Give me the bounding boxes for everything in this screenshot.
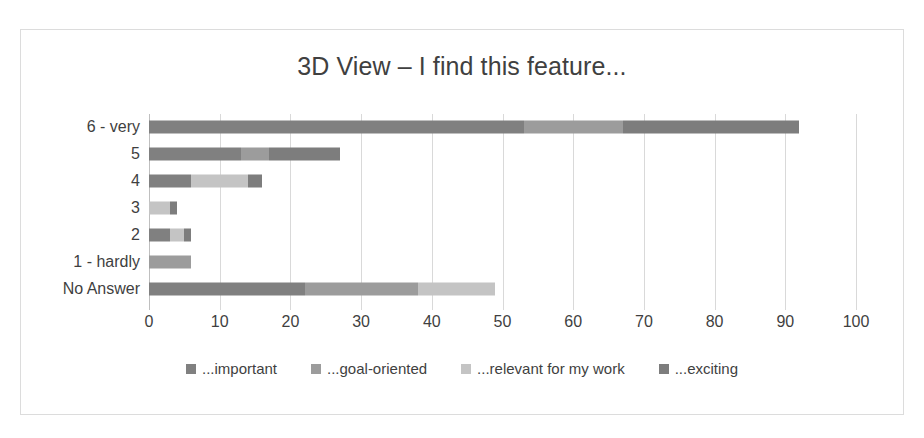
stacked-bar bbox=[149, 175, 262, 188]
bar-segment bbox=[149, 121, 524, 134]
bar-segment bbox=[418, 282, 496, 295]
bar-segment bbox=[305, 282, 418, 295]
x-tick-label: 70 bbox=[635, 313, 653, 331]
bar-segment bbox=[149, 282, 305, 295]
legend-item[interactable]: ...goal-oriented bbox=[311, 360, 427, 377]
stacked-bar bbox=[149, 282, 495, 295]
stacked-bar bbox=[149, 228, 191, 241]
legend-item[interactable]: ...relevant for my work bbox=[461, 360, 625, 377]
legend-label: ...goal-oriented bbox=[327, 360, 427, 377]
legend-item[interactable]: ...exciting bbox=[659, 360, 738, 377]
x-tick-label: 40 bbox=[423, 313, 441, 331]
bar-segment bbox=[191, 175, 248, 188]
chart-frame: 3D View – I find this feature... 6 - ver… bbox=[20, 29, 904, 415]
bar-segment bbox=[524, 121, 623, 134]
legend-swatch-icon bbox=[186, 364, 196, 374]
x-axis-tick-labels: 0102030405060708090100 bbox=[149, 313, 856, 337]
x-tick-label: 20 bbox=[281, 313, 299, 331]
x-tick-label: 100 bbox=[843, 313, 870, 331]
stacked-bar bbox=[149, 121, 799, 134]
legend-item[interactable]: ...important bbox=[186, 360, 277, 377]
stacked-bar bbox=[149, 148, 340, 161]
x-tick-label: 30 bbox=[352, 313, 370, 331]
x-tick-label: 80 bbox=[706, 313, 724, 331]
gridline-100 bbox=[856, 114, 857, 310]
category-label: 4 bbox=[131, 172, 140, 190]
x-tick-label: 60 bbox=[564, 313, 582, 331]
bar-segment bbox=[184, 228, 191, 241]
bar-row: No Answer bbox=[149, 275, 856, 302]
bar-segment bbox=[149, 255, 191, 268]
bar-segment bbox=[149, 175, 191, 188]
legend-swatch-icon bbox=[311, 364, 321, 374]
bar-row: 3 bbox=[149, 195, 856, 222]
x-tick-label: 10 bbox=[211, 313, 229, 331]
chart-legend: ...important...goal-oriented...relevant … bbox=[21, 360, 903, 377]
legend-swatch-icon bbox=[461, 364, 471, 374]
legend-label: ...important bbox=[202, 360, 277, 377]
bar-segment bbox=[149, 148, 241, 161]
x-tick-label: 50 bbox=[494, 313, 512, 331]
stacked-bar bbox=[149, 201, 177, 214]
category-label: 6 - very bbox=[87, 118, 140, 136]
bar-row: 2 bbox=[149, 221, 856, 248]
legend-label: ...exciting bbox=[675, 360, 738, 377]
bar-segment bbox=[170, 201, 177, 214]
bar-row: 4 bbox=[149, 168, 856, 195]
category-label: No Answer bbox=[63, 280, 140, 298]
bar-row: 5 bbox=[149, 141, 856, 168]
category-label: 1 - hardly bbox=[73, 253, 140, 271]
category-label: 2 bbox=[131, 226, 140, 244]
legend-label: ...relevant for my work bbox=[477, 360, 625, 377]
bar-segment bbox=[248, 175, 262, 188]
category-label: 5 bbox=[131, 145, 140, 163]
bar-row: 1 - hardly bbox=[149, 248, 856, 275]
chart-title: 3D View – I find this feature... bbox=[21, 52, 903, 81]
bar-segment bbox=[241, 148, 269, 161]
plot-area: 6 - very54321 - hardlyNo Answer bbox=[149, 114, 856, 302]
bar-segment bbox=[149, 228, 170, 241]
bar-segment bbox=[269, 148, 340, 161]
x-tick-label: 90 bbox=[776, 313, 794, 331]
stacked-bar bbox=[149, 255, 191, 268]
bar-segment bbox=[170, 228, 184, 241]
bar-segment bbox=[149, 201, 170, 214]
bar-row: 6 - very bbox=[149, 114, 856, 141]
x-tick-label: 0 bbox=[145, 313, 154, 331]
category-label: 3 bbox=[131, 199, 140, 217]
bar-segment bbox=[623, 121, 800, 134]
legend-swatch-icon bbox=[659, 364, 669, 374]
